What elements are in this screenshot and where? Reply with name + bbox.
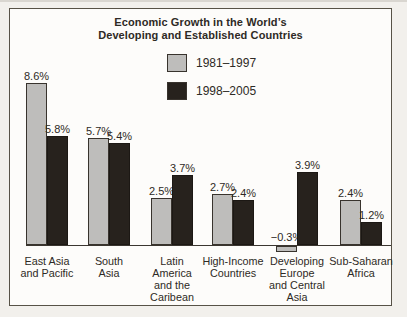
bar-series1-cat6 (340, 200, 361, 245)
bar-series2-cat6 (361, 222, 382, 245)
page-edge-shading (0, 0, 407, 2)
value-label-series1-cat6: 2.4% (338, 187, 363, 199)
bar-series2-cat4 (233, 200, 254, 245)
category-label-line: and Central (252, 279, 342, 291)
bar-series1-cat3 (151, 198, 172, 245)
category-label-6: Sub-SaharanAfrica (316, 255, 406, 279)
figure: Economic Growth in the World’s Developin… (0, 0, 407, 317)
value-label-series2-cat4: 2.4% (231, 187, 256, 199)
value-label-series2-cat3: 3.7% (170, 162, 195, 174)
category-label-line: Caribean (127, 291, 217, 303)
bar-series1-cat4 (212, 194, 233, 245)
bar-series2-cat2 (109, 143, 130, 245)
bar-series2-cat1 (47, 136, 68, 245)
value-label-series2-cat5: 3.9% (295, 159, 320, 171)
category-label-line: Sub-Saharan (316, 255, 406, 267)
value-label-series1-cat3: 2.5% (149, 185, 174, 197)
x-axis-line (26, 245, 391, 246)
category-label-line: and the (127, 279, 217, 291)
bar-series2-cat3 (172, 175, 193, 245)
bar-series1-cat1 (26, 83, 47, 245)
value-label-series2-cat1: 5.8% (45, 123, 70, 135)
category-label-line: Africa (316, 267, 406, 279)
chart-frame: Economic Growth in the World’s Developin… (9, 8, 392, 306)
value-label-series2-cat2: 5.4% (107, 130, 132, 142)
bar-series1-cat5 (276, 246, 297, 252)
value-label-series1-cat1: 8.6% (24, 70, 49, 82)
bar-series1-cat2 (88, 138, 109, 245)
category-label-line: Asia (252, 291, 342, 303)
bar-series2-cat5 (297, 172, 318, 245)
plot-area: 8.6%5.8%East Asiaand Pacific5.7%5.4%Sout… (10, 9, 391, 305)
value-label-series2-cat6: 1.2% (359, 209, 384, 221)
